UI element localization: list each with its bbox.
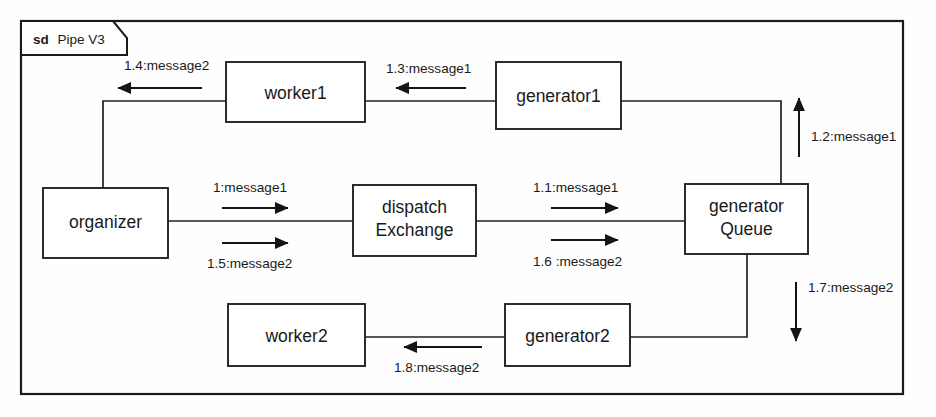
message-1-4-message2-label: 1.4:message2 [124,58,209,73]
message-1-6-message2[interactable]: 1.6 :message2 [533,240,622,269]
node-generator1[interactable]: generator1 [496,62,621,129]
diagram-canvas: sd Pipe V3 worker1 generator1 [0,0,936,417]
message-1-5-message2[interactable]: 1.5:message2 [207,243,292,271]
message-1-7-message2-label: 1.7:message2 [808,280,893,295]
communication-diagram: sd Pipe V3 worker1 generator1 [0,0,936,417]
node-generator2-label: generator2 [525,326,610,346]
node-generator2[interactable]: generator2 [505,304,630,366]
node-generator-queue-label-line1: generator [709,196,784,216]
message-1-2-message1-label: 1.2:message1 [811,129,896,144]
message-1-1-message1-label: 1.1:message1 [533,180,618,195]
link-worker1-organizer [103,101,226,188]
link-generator1-generatorqueue [621,101,781,184]
node-worker2[interactable]: worker2 [228,304,365,366]
message-1-3-message1[interactable]: 1.3:message1 [386,61,471,88]
message-1-7-message2[interactable]: 1.7:message2 [796,280,893,341]
node-generator1-label: generator1 [516,86,601,106]
node-worker1[interactable]: worker1 [226,62,365,122]
frame-keyword: sd [33,32,49,47]
message-1-3-message1-label: 1.3:message1 [386,61,471,76]
node-dispatch-exchange-label-line2: Exchange [376,220,454,240]
node-worker1-label: worker1 [263,83,326,103]
node-dispatch-exchange[interactable]: dispatch Exchange [353,185,476,256]
message-1-1-message1[interactable]: 1.1:message1 [533,180,618,208]
node-worker2-label: worker2 [264,326,327,346]
message-1-message1[interactable]: 1:message1 [213,180,288,208]
message-1-message1-label: 1:message1 [213,180,287,195]
message-1-4-message2[interactable]: 1.4:message2 [118,58,209,88]
message-1-2-message1[interactable]: 1.2:message1 [799,98,896,157]
message-1-8-message2[interactable]: 1.8:message2 [394,347,482,375]
message-1-8-message2-label: 1.8:message2 [394,360,479,375]
node-dispatch-exchange-label-line1: dispatch [382,197,447,217]
frame-tab-text: sd Pipe V3 [33,32,105,47]
message-1-5-message2-label: 1.5:message2 [207,256,292,271]
node-organizer[interactable]: organizer [43,188,168,258]
frame-title: Pipe V3 [58,32,105,47]
node-generator-queue[interactable]: generator Queue [685,184,808,254]
node-organizer-label: organizer [69,212,142,232]
message-1-6-message2-label: 1.6 :message2 [533,254,622,269]
node-generator-queue-label-line2: Queue [720,219,773,239]
link-generatorqueue-generator2 [630,254,747,337]
